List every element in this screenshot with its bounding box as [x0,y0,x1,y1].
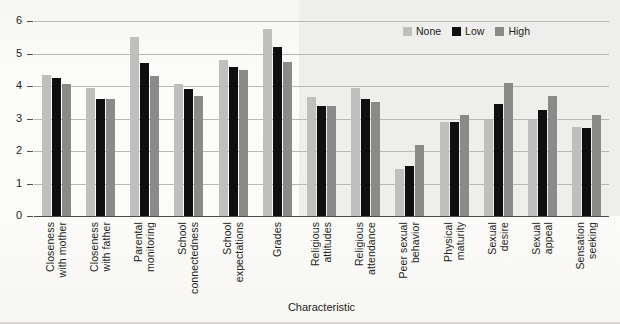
x-axis-label-line: Religious [354,222,365,266]
bar-high[interactable] [327,106,336,217]
bar-low[interactable] [494,104,503,216]
bar-low[interactable] [96,99,105,216]
bar-none[interactable] [86,88,95,216]
bar-low[interactable] [450,122,459,216]
bar-group [255,21,299,216]
bar-group [344,21,388,216]
x-axis-label-line: Closeness [89,222,100,272]
bar-none[interactable] [130,37,139,216]
bar-high[interactable] [150,76,159,216]
chart-container: None Low High 0123456 Closenesswith moth… [0,0,620,324]
x-axis-label-line: monitoring [145,222,156,272]
x-axis-title: Characteristic [34,301,609,313]
x-axis-label: Grades [255,219,299,299]
bar-low[interactable] [317,106,326,217]
x-axis-label: Schoolexpectations [211,219,255,299]
x-axis-label: Closenesswith mother [34,219,78,299]
y-tick-mark-6 [27,21,33,22]
x-axis-label-line: maturity [455,222,466,260]
bar-high[interactable] [239,70,248,216]
bar-none[interactable] [307,97,316,216]
bar-low[interactable] [405,166,414,216]
bar-none[interactable] [528,120,537,216]
y-tick-label-2: 2 [0,144,22,156]
x-axis-label: Sensationseeking [565,219,609,299]
x-axis-label-line: Sexual [531,222,542,255]
legend-swatch-high-icon [495,27,504,36]
bar-high[interactable] [504,83,513,216]
bar-high[interactable] [548,96,557,216]
y-tick-label-1: 1 [0,177,22,189]
legend-swatch-low-icon [452,27,461,36]
y-tick-mark-3 [27,119,33,120]
legend-item-none[interactable]: None [403,25,441,37]
x-axis-label-line: Religious [310,222,321,266]
x-axis-label-line: Parental [133,222,144,262]
x-axis-label: Sexualdesire [476,219,520,299]
bar-group [211,21,255,216]
bar-group [521,21,565,216]
legend-item-high[interactable]: High [495,25,530,37]
x-axis-label: Peer sexualbehavior [388,219,432,299]
bar-group [122,21,166,216]
y-tick-label-4: 4 [0,79,22,91]
x-axis-label-line: Closeness [45,222,56,272]
x-axis-label-line: appeal [543,222,554,254]
y-tick-mark-2 [27,151,33,152]
bar-group [388,21,432,216]
bar-high[interactable] [62,84,71,216]
bar-high[interactable] [283,62,292,216]
x-axis-label-line: Sexual [487,222,498,255]
bar-low[interactable] [184,89,193,216]
legend-swatch-none-icon [403,27,412,36]
y-tick-label-0: 0 [0,209,22,221]
bar-none[interactable] [351,88,360,216]
y-tick-label-3: 3 [0,112,22,124]
bar-group [78,21,122,216]
bar-none[interactable] [174,84,183,216]
x-axis-label: Religiousattitudes [299,219,343,299]
bar-group [167,21,211,216]
bar-none[interactable] [440,122,449,216]
bar-groups [34,21,609,216]
bar-none[interactable] [42,75,51,216]
y-tick-label-6: 6 [0,14,22,26]
bar-group [432,21,476,216]
x-axis-label: Closenesswith father [78,219,122,299]
bar-none[interactable] [484,120,493,216]
bar-low[interactable] [273,47,282,216]
bar-none[interactable] [219,60,228,216]
x-axis-label: Sexualappeal [521,219,565,299]
bar-high[interactable] [194,96,203,216]
x-axis-label: Physicalmaturity [432,219,476,299]
chart-legend: None Low High [403,25,530,37]
x-axis-label: Religiousattendance [344,219,388,299]
bar-high[interactable] [371,102,380,216]
x-axis-label-line: connectedness [189,222,200,294]
x-axis-label-line: behavior [410,222,421,263]
bar-high[interactable] [592,115,601,216]
bar-none[interactable] [572,127,581,216]
bar-group [565,21,609,216]
x-axis-labels: Closenesswith motherClosenesswith father… [34,219,609,299]
x-axis-label: Schoolconnectedness [167,219,211,299]
legend-label-low: Low [465,25,484,37]
bar-low[interactable] [52,78,61,216]
bar-high[interactable] [460,115,469,216]
x-axis-label-line: with father [101,222,112,272]
x-axis-label-line: attendance [366,222,377,275]
bar-high[interactable] [415,145,424,217]
y-tick-mark-5 [27,54,33,55]
bar-low[interactable] [361,99,370,216]
bar-none[interactable] [263,29,272,216]
x-axis-label-line: Grades [272,222,283,257]
bar-none[interactable] [395,169,404,216]
bar-low[interactable] [229,67,238,217]
bar-low[interactable] [140,63,149,216]
gridline-0 [34,216,609,217]
legend-item-low[interactable]: Low [452,25,484,37]
bar-low[interactable] [538,110,547,216]
x-axis-label-line: with mother [57,222,68,277]
bar-high[interactable] [106,99,115,216]
bar-low[interactable] [582,128,591,216]
